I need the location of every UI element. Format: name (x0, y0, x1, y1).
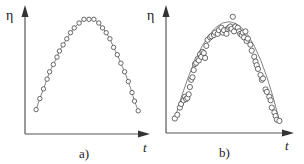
data-point (55, 55, 59, 59)
data-point (269, 105, 274, 110)
data-point (203, 55, 208, 60)
data-point (111, 45, 115, 49)
data-point (87, 17, 91, 21)
data-point (268, 98, 273, 103)
data-point (45, 77, 49, 81)
data-point (126, 79, 130, 83)
data-point (77, 21, 81, 25)
data-point (122, 70, 126, 74)
data-point (65, 37, 69, 41)
data-point (104, 31, 108, 35)
data-point (57, 49, 61, 53)
figure: η t a) η t b) (0, 0, 304, 164)
data-point (41, 87, 45, 91)
data-point (34, 107, 38, 111)
panel-a: η t a) (6, 5, 150, 161)
data-point (136, 109, 140, 113)
data-point (186, 92, 191, 97)
y-axis-arrow-a-icon (22, 5, 29, 17)
data-point (68, 31, 72, 35)
data-point (130, 90, 134, 94)
data-point (252, 54, 257, 59)
data-point (47, 70, 51, 74)
data-point (204, 43, 209, 48)
data-point (201, 51, 206, 56)
data-point (190, 75, 195, 80)
data-point (115, 53, 119, 57)
data-point (72, 26, 76, 30)
x-axis-arrow-a-icon (138, 131, 150, 138)
data-point (243, 29, 248, 34)
data-point (224, 31, 229, 36)
y-axis-label-b: η (147, 8, 154, 23)
data-point (264, 89, 269, 94)
panel-label-b: b) (219, 145, 230, 160)
data-point (38, 96, 42, 100)
markers-b (172, 14, 282, 123)
data-point (260, 76, 265, 81)
data-point (82, 17, 86, 21)
data-point (230, 14, 235, 19)
data-point (187, 84, 192, 89)
data-point (277, 118, 282, 123)
data-point (119, 61, 123, 65)
data-point (245, 36, 250, 41)
data-point (108, 37, 112, 41)
data-point (175, 112, 180, 117)
data-point (191, 68, 196, 73)
data-point (248, 42, 253, 47)
data-point (100, 26, 104, 30)
data-point (132, 99, 136, 103)
data-point (97, 21, 101, 25)
data-point (92, 17, 96, 21)
data-point (255, 66, 260, 71)
panel-b: η t b) (147, 5, 294, 160)
x-axis-label-a: t (143, 140, 147, 155)
data-point (249, 48, 254, 53)
y-axis-label-a: η (6, 8, 13, 23)
x-axis-label-b: t (285, 138, 289, 153)
y-axis-arrow-b-icon (163, 5, 170, 17)
data-point (61, 43, 65, 47)
data-point (51, 62, 55, 66)
panel-label-a: a) (79, 146, 89, 161)
markers-a (34, 17, 141, 113)
x-axis-arrow-b-icon (282, 130, 294, 137)
